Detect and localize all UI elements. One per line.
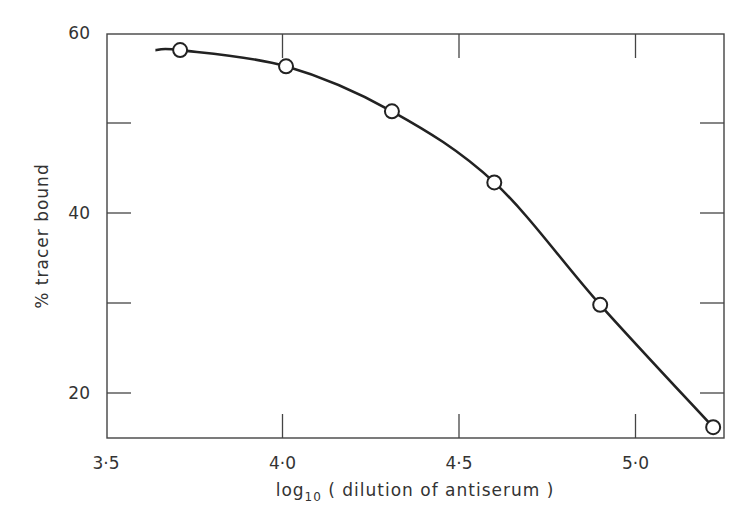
data-point [173, 43, 187, 57]
data-point [593, 298, 607, 312]
y-tick-labels: 204060 [68, 23, 90, 403]
y-tick-label: 40 [68, 203, 90, 223]
data-point [385, 104, 399, 118]
data-point [706, 420, 720, 434]
y-tick-label: 20 [68, 383, 90, 403]
dilution-curve-chart: 204060 3·54·04·55·0 log10 ( dilution of … [0, 0, 750, 532]
data-markers [173, 43, 720, 434]
x-tick-label: 4·0 [269, 453, 296, 473]
data-point [279, 59, 293, 73]
y-axis-title: % tracer bound [32, 163, 52, 308]
plot-frame [107, 34, 724, 438]
x-tick-label: 5·0 [622, 453, 649, 473]
data-curve [155, 49, 713, 427]
data-point [487, 175, 501, 189]
x-tick-labels: 3·54·04·55·0 [92, 453, 649, 473]
plot-border [107, 34, 724, 438]
x-tick-label: 3·5 [92, 453, 119, 473]
y-tick-label: 60 [68, 23, 90, 43]
x-tick-label: 4·5 [445, 453, 472, 473]
x-axis-title: log10 ( dilution of antiserum ) [276, 480, 555, 504]
axis-ticks [107, 34, 724, 438]
